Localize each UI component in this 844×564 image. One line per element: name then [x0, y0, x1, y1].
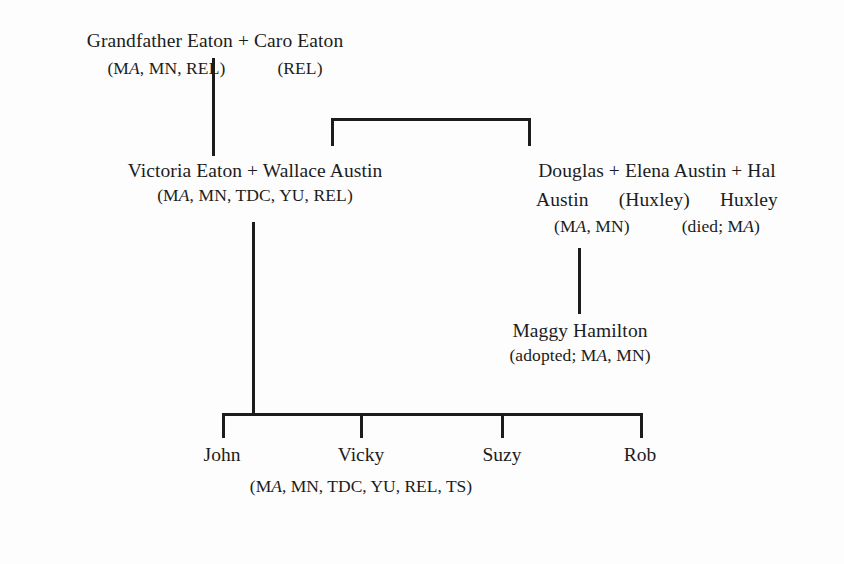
elena-maiden-name: (Huxley) — [619, 187, 690, 213]
grandparents-names: Grandfather Eaton + Caro Eaton — [0, 28, 430, 54]
connector-child-tick-rob — [640, 413, 643, 438]
connector-sibling-bracket-horizontal — [331, 118, 531, 121]
connector-bracket-left-drop — [331, 118, 334, 146]
hal-huxley-codes: (died; MA) — [682, 215, 760, 238]
connector-child-tick-vicky — [360, 413, 363, 438]
node-child-rob: Rob — [580, 444, 700, 466]
connector-austin-to-maggy — [578, 248, 581, 314]
family-tree-diagram: Grandfather Eaton + Caro Eaton (MA, MN, … — [0, 0, 844, 564]
connector-victoria-descent — [252, 222, 255, 416]
node-child-vicky: Vicky — [301, 444, 421, 466]
caro-codes: (REL) — [277, 57, 322, 80]
maggy-name: Maggy Hamilton — [460, 318, 700, 344]
maggy-codes: (adopted; MA, MN) — [460, 344, 700, 367]
douglas-elena-codes: (MA, MN) — [554, 215, 630, 238]
node-grandparents: Grandfather Eaton + Caro Eaton (MA, MN, … — [0, 28, 430, 80]
hal-surname: Huxley — [720, 187, 778, 213]
austin-huxley-line1: Douglas + Elena Austin + Hal — [470, 158, 844, 184]
douglas-surname: Austin — [536, 187, 589, 213]
node-victoria-wallace: Victoria Eaton + Wallace Austin (MA, MN,… — [75, 158, 435, 207]
connector-child-tick-suzy — [501, 413, 504, 438]
node-child-suzy: Suzy — [442, 444, 562, 466]
connector-children-bar — [222, 413, 643, 416]
victoria-wallace-codes: (MA, MN, TDC, YU, REL) — [75, 184, 435, 207]
children-codes: (MA, MN, TDC, YU, REL, TS) — [181, 476, 541, 497]
node-austin-huxley: Douglas + Elena Austin + Hal Austin (Hux… — [470, 158, 844, 239]
victoria-wallace-names: Victoria Eaton + Wallace Austin — [75, 158, 435, 184]
node-maggy-hamilton: Maggy Hamilton (adopted; MA, MN) — [460, 318, 700, 367]
grandfather-codes: (MA, MN, REL) — [107, 57, 225, 80]
connector-child-tick-john — [222, 413, 225, 438]
connector-bracket-right-drop — [528, 118, 531, 146]
node-child-john: John — [162, 444, 282, 466]
